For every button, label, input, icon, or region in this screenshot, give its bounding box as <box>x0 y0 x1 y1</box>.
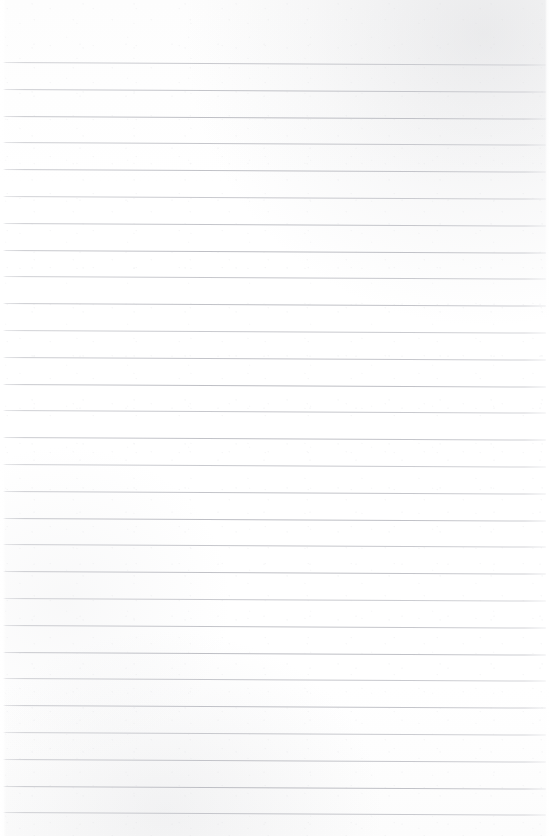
rule-line <box>3 812 546 816</box>
lined-paper-page <box>0 0 550 836</box>
writing-area[interactable] <box>3 62 546 812</box>
